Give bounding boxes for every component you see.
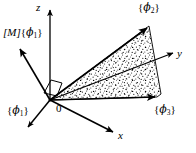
vector-diagram-figure: z y x 0 [M]{ϕ1} {ϕ1} {ϕ2} {ϕ3} (0, 0, 196, 153)
vector-label-M-phi1: [M]{ϕ1} (3, 27, 43, 39)
diagram-canvas (0, 0, 196, 153)
brace-close-3: } (171, 103, 176, 115)
origin-label: 0 (56, 103, 62, 114)
matrix-bracket-M: [M] (3, 26, 21, 38)
axis-label-x: x (118, 130, 123, 141)
axis-label-y: y (177, 48, 182, 59)
phi-symbol-3: ϕ (159, 103, 167, 116)
phi-symbol-2: ϕ (143, 1, 151, 14)
brace-close-1: } (24, 104, 29, 116)
vector-label-phi1: {ϕ1} (7, 105, 29, 117)
vector-label-phi2: {ϕ2} (138, 2, 160, 14)
vector-label-phi3: {ϕ3} (154, 104, 176, 116)
shaded-fan-region (50, 26, 161, 100)
phi-symbol-0: ϕ (26, 26, 34, 39)
vector-phi1 (28, 100, 50, 127)
brace-close-2: } (155, 1, 160, 13)
axis-label-z: z (36, 2, 40, 13)
phi-symbol-1: ϕ (12, 104, 20, 117)
vector-M-phi1 (20, 49, 50, 100)
origin-point (49, 99, 52, 102)
brace-close-0: } (37, 26, 42, 38)
